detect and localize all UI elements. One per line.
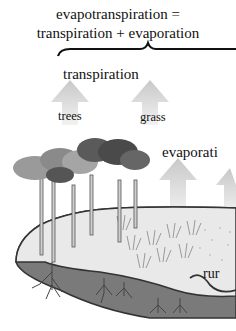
brace [58, 43, 236, 56]
label-evaporation: evaporati [162, 145, 218, 160]
label-grass: grass [140, 111, 166, 124]
label-transpiration: transpiration [63, 67, 139, 82]
tree-canopies [13, 138, 150, 183]
title-line-2: transpiration + evaporation [0, 26, 236, 41]
title-line-1: evapotranspiration = [0, 7, 236, 22]
evapotranspiration-illustration [0, 0, 236, 331]
label-trees: trees [58, 110, 82, 123]
label-runoff: rur [203, 267, 219, 281]
